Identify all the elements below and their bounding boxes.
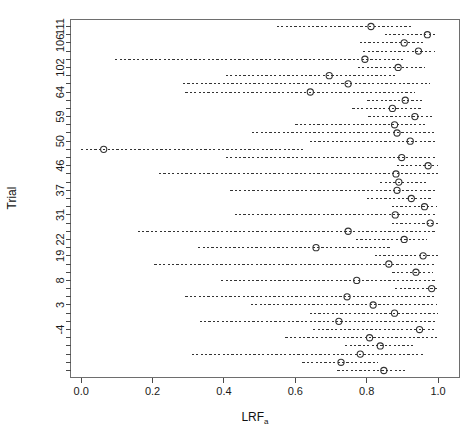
y-axis-tick-label: 64 — [54, 86, 66, 98]
y-axis-title: Trial — [5, 187, 19, 210]
x-axis-tick-label: 0.6 — [288, 385, 303, 397]
x-axis-tick-label: 0.8 — [359, 385, 374, 397]
x-axis-tick-label: 0.4 — [216, 385, 231, 397]
confidence-interval-lines — [81, 27, 438, 371]
x-axis-tick-label: 0.2 — [145, 385, 160, 397]
y-axis-tick-label: 111 — [54, 18, 66, 35]
x-axis-labels: 0.00.20.40.60.81.0 — [74, 385, 446, 397]
y-axis-tick-label: 46 — [54, 160, 66, 172]
plot-frame — [71, 20, 460, 378]
y-axis-tick-label: 50 — [54, 135, 66, 147]
x-axis-tick-label: 1.0 — [430, 385, 445, 397]
y-axis-tick-label: 22 — [54, 233, 66, 245]
y-axis-tick-label: 19 — [54, 250, 66, 262]
y-axis-tick-label: 8 — [54, 277, 66, 283]
y-axis-ticks — [66, 27, 71, 371]
y-axis-tick-label: 106 — [54, 34, 66, 52]
x-axis-title: LRFa — [241, 410, 269, 426]
y-axis-tick-label: -4 — [54, 325, 66, 335]
chart-canvas: 111106102645950463731221983-4 0.00.20.40… — [0, 0, 473, 437]
y-axis-tick-label: 31 — [54, 209, 66, 221]
y-axis-labels: 111106102645950463731221983-4 — [54, 18, 66, 334]
y-axis-tick-label: 3 — [54, 302, 66, 308]
x-axis-tick-label: 0.0 — [74, 385, 89, 397]
x-axis-ticks — [81, 378, 438, 383]
y-axis-tick-label: 59 — [54, 110, 66, 122]
y-axis-tick-label: 37 — [54, 184, 66, 196]
y-axis-tick-label: 102 — [54, 58, 66, 76]
forest-plot-figure: 111106102645950463731221983-4 0.00.20.40… — [0, 0, 473, 437]
